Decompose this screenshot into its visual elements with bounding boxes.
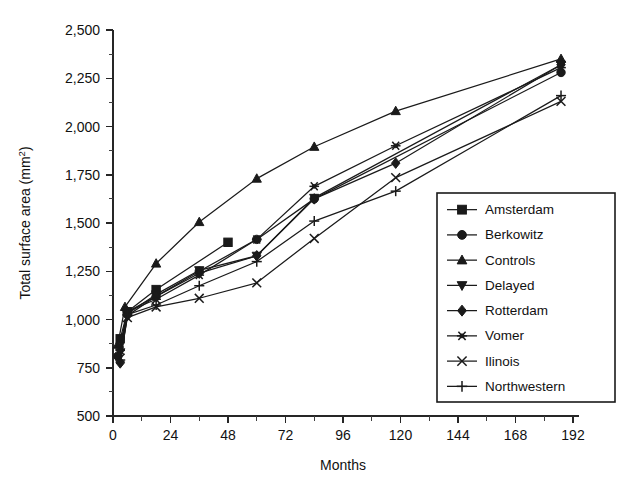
data-point-marker xyxy=(195,217,204,225)
x-tick-label: 168 xyxy=(504,427,528,443)
data-point-marker xyxy=(310,142,319,150)
data-point-marker xyxy=(309,216,319,226)
x-tick-labels: 024487296120144168192 xyxy=(109,427,585,443)
chart-figure: 5007501,0001,2501,5001,7502,0002,2502,50… xyxy=(0,0,632,485)
x-tick-label: 72 xyxy=(278,427,294,443)
data-point-marker xyxy=(559,66,563,70)
x-tick-label: 144 xyxy=(446,427,470,443)
data-point-marker xyxy=(255,238,259,242)
chart-legend: AmsterdamBerkowitzControlsDelayedRotterd… xyxy=(437,193,615,402)
data-point-marker xyxy=(391,142,401,150)
x-tick-label: 0 xyxy=(109,427,117,443)
legend-box xyxy=(437,193,615,402)
legend-label: Vomer xyxy=(485,328,525,343)
y-tick-label: 750 xyxy=(77,360,101,376)
data-point-marker xyxy=(392,158,400,169)
x-tick-label: 192 xyxy=(561,427,585,443)
y-axis-title-group: Total surface area (mm2) xyxy=(16,146,33,299)
data-point-marker xyxy=(310,234,319,243)
x-tick-label: 48 xyxy=(220,427,236,443)
y-tick-label: 1,000 xyxy=(65,312,100,328)
data-point-marker xyxy=(394,144,398,148)
legend-item-rotterdam[interactable]: Rotterdam xyxy=(447,303,548,318)
y-axis-title: Total surface area (mm2) xyxy=(16,146,33,299)
y-tick-label: 2,250 xyxy=(65,70,100,86)
legend-label: Berkowitz xyxy=(485,227,544,242)
x-axis-title: Months xyxy=(320,457,366,473)
line-chart: 5007501,0001,2501,5001,7502,0002,2502,50… xyxy=(0,0,632,485)
y-tick-label: 1,500 xyxy=(65,215,100,231)
legend-label: Amsterdam xyxy=(485,202,554,217)
data-point-marker xyxy=(391,173,400,182)
data-point-marker xyxy=(312,184,316,188)
data-point-marker xyxy=(391,186,401,196)
y-tick-label: 500 xyxy=(77,408,101,424)
x-tick-label: 96 xyxy=(335,427,351,443)
data-point-marker xyxy=(224,238,232,246)
legend-label: Controls xyxy=(485,253,536,268)
data-point-marker xyxy=(197,273,201,277)
legend-label: Ilinois xyxy=(485,354,520,369)
y-tick-label: 2,500 xyxy=(65,22,100,38)
x-tick-label: 24 xyxy=(163,427,179,443)
y-tick-labels: 5007501,0001,2501,5001,7502,0002,2502,50… xyxy=(65,22,100,424)
series-amsterdam xyxy=(116,238,232,343)
data-point-marker xyxy=(556,91,566,101)
legend-label: Rotterdam xyxy=(485,303,548,318)
data-point-marker xyxy=(194,281,204,291)
data-point-marker xyxy=(309,182,319,190)
x-tick-label: 120 xyxy=(389,427,413,443)
y-tick-label: 2,000 xyxy=(65,119,100,135)
data-point-marker xyxy=(252,278,261,287)
data-point-marker xyxy=(252,257,262,267)
legend-marker-icon xyxy=(460,334,464,338)
legend-label: Northwestern xyxy=(485,379,565,394)
y-tick-label: 1,750 xyxy=(65,167,100,183)
y-tick-label: 1,250 xyxy=(65,263,100,279)
data-point-marker xyxy=(252,174,261,182)
legend-label: Delayed xyxy=(485,278,535,293)
legend-marker-icon xyxy=(458,205,467,214)
legend-marker-icon xyxy=(458,231,467,240)
